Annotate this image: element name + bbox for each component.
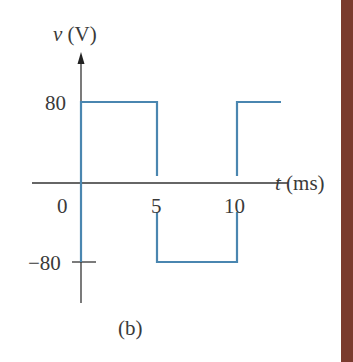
square-wave-figure: v (V) 80 0 5 10 −80 t (ms) (b) bbox=[0, 0, 353, 362]
y-axis-unit: (V) bbox=[68, 22, 97, 46]
y-axis-label: v (V) bbox=[53, 24, 97, 45]
signal-line-low bbox=[157, 212, 237, 262]
signal-line bbox=[81, 102, 157, 183]
x-axis-label: t (ms) bbox=[275, 173, 325, 194]
signal-line-high bbox=[237, 102, 281, 176]
y-axis-arrow-icon bbox=[78, 52, 85, 64]
x-axis-var: t bbox=[275, 171, 281, 195]
x-tick-label-0: 0 bbox=[57, 196, 68, 217]
figure-caption: (b) bbox=[118, 318, 143, 339]
y-axis-var: v bbox=[53, 22, 62, 46]
y-tick-label-neg80: −80 bbox=[28, 253, 61, 274]
x-tick-label-10: 10 bbox=[224, 196, 245, 217]
page-edge-bar bbox=[341, 0, 353, 362]
y-tick-label-80: 80 bbox=[45, 93, 66, 114]
x-axis-unit: (ms) bbox=[286, 171, 325, 195]
x-tick-label-5: 5 bbox=[151, 196, 162, 217]
